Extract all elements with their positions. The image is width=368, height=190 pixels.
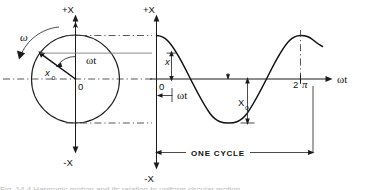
one-cycle-left-arrowhead (155, 150, 162, 155)
x-sub-zero-subscript-circle: o (52, 74, 56, 81)
wave-axis-down-arrowhead (154, 163, 160, 170)
wave-axis-up-arrowhead (154, 15, 160, 22)
amplitude-label: X (238, 97, 245, 108)
omega-t-measure-left-arrowhead (157, 93, 163, 98)
omega-t-label-circle: ωt (86, 54, 96, 66)
harmonic-motion-figure: +X -X ω ωt x o 0 (0, 0, 368, 190)
one-cycle-right-arrowhead (308, 150, 315, 155)
circle-minus-x-label: -X (63, 157, 73, 168)
circle-plus-x-label: +X (62, 4, 75, 15)
wave-origin-label: 0 (159, 81, 164, 92)
amplitude-down-arrowhead (245, 119, 250, 126)
wave-minus-x-label: -X (144, 173, 154, 184)
sinusoid-graph: +X -X 0 x ωt X o 2 π ωt ONE CYCLE (143, 4, 347, 184)
figure-caption: Fig. 14.4 Harmonic motion and its relati… (0, 184, 368, 190)
circle-origin-label: 0 (78, 81, 83, 92)
omega-rotation-arrowhead (17, 51, 25, 60)
omega-t-axis-label: ωt (337, 73, 347, 85)
two-label: 2 (293, 79, 298, 90)
amplitude-label-subscript: o (245, 104, 249, 111)
circle-axis-down-arrowhead (73, 147, 79, 154)
x-projection-label: x (164, 56, 171, 67)
circle-axis-up-arrowhead (73, 15, 79, 22)
amplitude-up-arrowhead (245, 77, 250, 84)
one-cycle-label: ONE CYCLE (191, 149, 245, 158)
x-sub-zero-label-circle: x (44, 67, 51, 78)
phasor-circle-diagram: +X -X ω ωt x o 0 (3, 4, 152, 168)
omega-t-label-wave: ωt (177, 89, 187, 101)
omega-label: ω (20, 31, 28, 43)
wave-plus-x-label: +X (143, 4, 156, 15)
wave-axis-right-arrowhead (326, 76, 333, 82)
pi-label: π (302, 78, 308, 90)
